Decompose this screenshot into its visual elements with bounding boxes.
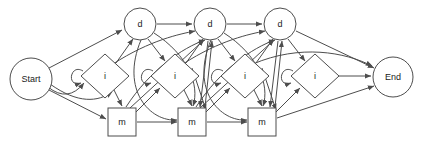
edge-d1-to-i2 <box>148 39 165 61</box>
node-insert-1[interactable]: i <box>81 54 129 98</box>
node-match-1[interactable]: m <box>108 108 136 136</box>
end-ellipse[interactable] <box>373 57 413 97</box>
node-start[interactable]: Start <box>10 58 52 100</box>
edge-m3-to-end <box>277 86 374 118</box>
match-3-square[interactable] <box>248 108 276 136</box>
node-layer: Start d i m d i <box>10 8 413 136</box>
match-1-square[interactable] <box>108 108 136 136</box>
start-ellipse[interactable] <box>10 58 52 100</box>
node-delete-3[interactable]: d <box>264 8 296 40</box>
edge-m3-to-i4 <box>276 88 300 112</box>
edge-i1-to-d1 <box>116 39 133 63</box>
edge-i1-to-m1 <box>113 88 122 106</box>
node-match-2[interactable]: m <box>178 108 206 136</box>
edge-start-to-m1 <box>47 89 106 119</box>
edge-m3-up-to-d3 <box>275 41 282 107</box>
insert-4-diamond[interactable] <box>291 54 339 98</box>
node-match-3[interactable]: m <box>248 108 276 136</box>
match-2-square[interactable] <box>178 108 206 136</box>
node-insert-4[interactable]: i <box>291 54 339 98</box>
edge-d2-to-i3 <box>218 39 235 61</box>
node-delete-1[interactable]: d <box>124 8 156 40</box>
state-diagram: Start d i m d i <box>0 0 421 146</box>
delete-2-circle[interactable] <box>194 8 226 40</box>
delete-1-circle[interactable] <box>124 8 156 40</box>
diagram-canvas: Start d i m d i <box>0 0 421 146</box>
edge-d3-to-i4 <box>288 39 305 61</box>
edge-i2-to-m2 <box>183 88 192 106</box>
node-insert-2[interactable]: i <box>151 54 199 98</box>
edge-d3-down-to-m3 <box>270 41 278 107</box>
node-end[interactable]: End <box>373 57 413 97</box>
node-delete-2[interactable]: d <box>194 8 226 40</box>
edge-i2-to-d2 <box>186 39 203 63</box>
edge-i3-to-m3 <box>253 88 262 106</box>
insert-1-diamond[interactable] <box>81 54 129 98</box>
insert-2-diamond[interactable] <box>151 54 199 98</box>
delete-3-circle[interactable] <box>264 8 296 40</box>
